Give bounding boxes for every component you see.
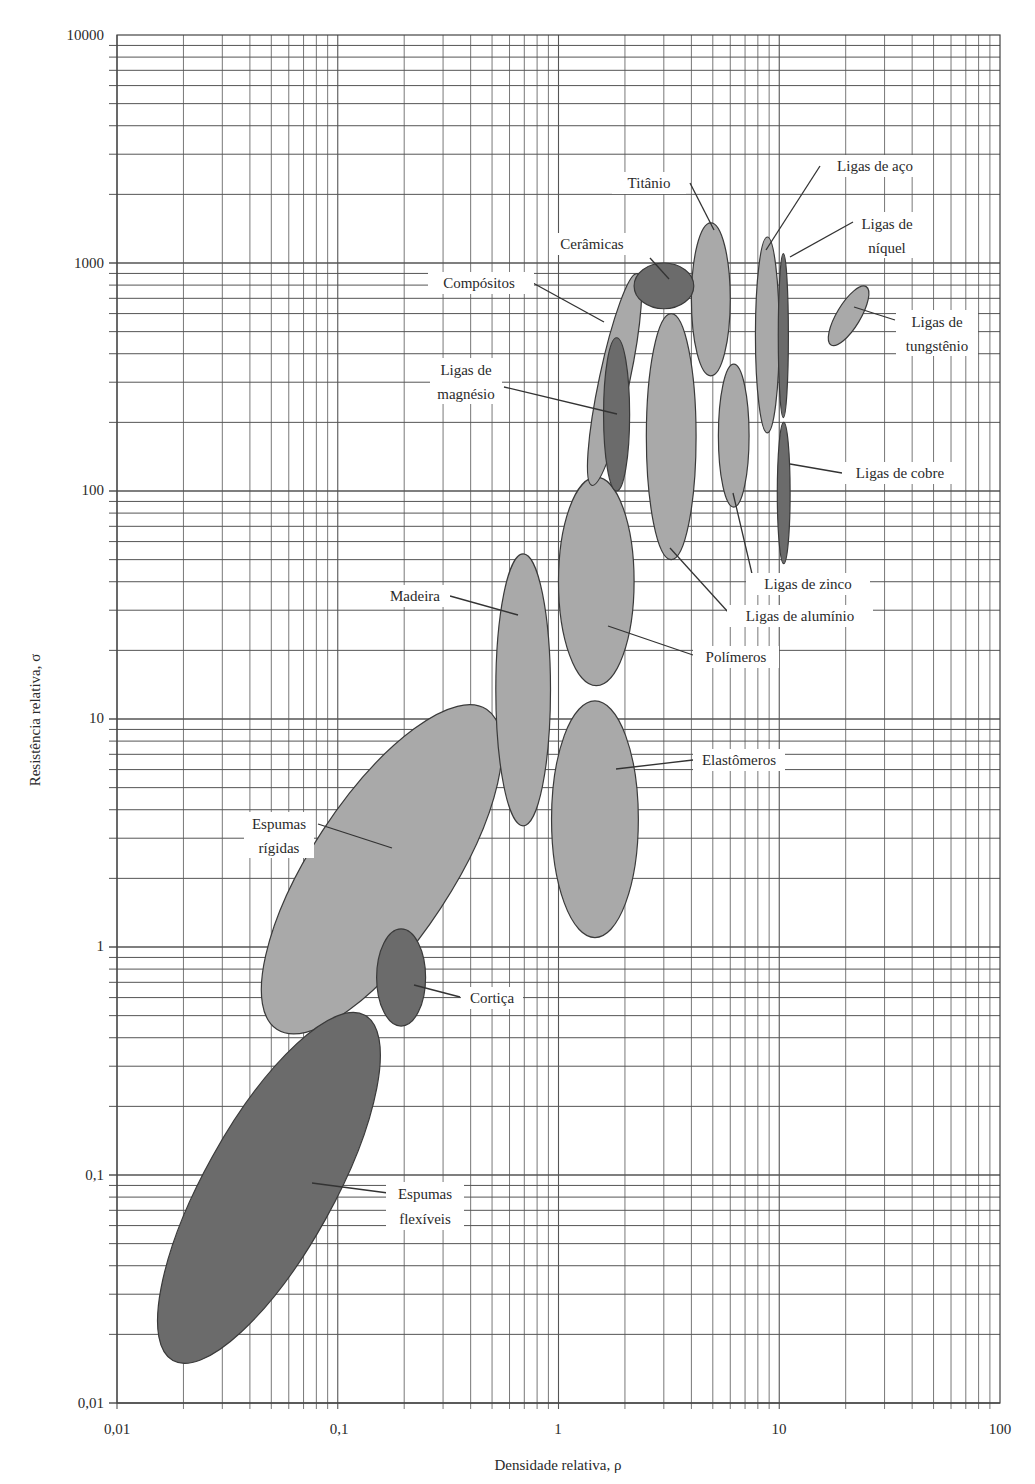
label-polimeros: Polímeros [706, 649, 767, 665]
y-tick-100: 100 [82, 482, 105, 498]
y-tick-1: 1 [97, 938, 105, 954]
y-tick-0.1: 0,1 [85, 1167, 104, 1183]
y-tick-0.01: 0,01 [78, 1395, 104, 1411]
x-tick-0.1: 0,1 [330, 1421, 349, 1437]
envelope-ligas-de-aço [755, 237, 779, 433]
y-tick-10000: 10000 [67, 27, 105, 43]
label-compositos: Compósitos [443, 275, 515, 291]
material-selection-chart: Espumas flexíveis Espumas rígidas Cortiç… [0, 0, 1035, 1484]
y-tick-1000: 1000 [74, 255, 104, 271]
label-espumas-flexiveis-2: flexíveis [399, 1211, 451, 1227]
label-aluminio: Ligas de alumínio [746, 608, 854, 624]
label-madeira: Madeira [390, 588, 440, 604]
x-tick-1: 1 [554, 1421, 562, 1437]
label-niquel: Ligas de [861, 216, 913, 232]
x-tick-10: 10 [772, 1421, 787, 1437]
envelope-elastômeros [552, 701, 639, 938]
y-tick-10: 10 [89, 710, 104, 726]
envelope-ligas-de-tungstênio [821, 281, 876, 352]
envelope-cortiça [377, 929, 426, 1026]
label-magnesio: Ligas de [440, 362, 492, 378]
label-ceramicas: Cerâmicas [560, 236, 623, 252]
envelope-madeira [496, 554, 551, 826]
envelope-ligas-de-zinco [718, 364, 749, 507]
label-cobre: Ligas de cobre [856, 465, 945, 481]
label-espumas-rigidas-2: rígidas [259, 840, 300, 856]
envelope-ligas-de-níquel [778, 254, 788, 418]
label-magnesio-2: magnésio [437, 386, 495, 402]
envelope-cerâmicas [634, 263, 694, 309]
label-niquel-2: níquel [868, 240, 906, 256]
x-tick-0.01: 0,01 [104, 1421, 130, 1437]
y-axis-title: Resistência relativa, σ [27, 654, 43, 787]
y-axis: 10000 1000 100 10 1 0,1 0,01 Resistência… [27, 27, 104, 1411]
label-aco: Ligas de aço [837, 158, 913, 174]
label-titanio: Titânio [628, 175, 671, 191]
envelope-titânio [691, 223, 730, 376]
label-tungstenio-2: tungstênio [906, 338, 969, 354]
label-zinco: Ligas de zinco [764, 576, 851, 592]
envelope-ligas-de-alumínio [646, 314, 696, 560]
x-axis: 0,01 0,1 1 10 100 Densidade relativa, ρ [104, 1421, 1011, 1473]
x-axis-title: Densidade relativa, ρ [494, 1457, 621, 1473]
label-elastomeros: Elastômeros [702, 752, 776, 768]
label-tungstenio: Ligas de [911, 314, 963, 330]
label-espumas-flexiveis: Espumas [398, 1186, 452, 1202]
envelope-polímeros [559, 477, 635, 686]
envelope-espumas-flexíveis [116, 984, 421, 1392]
x-tick-100: 100 [989, 1421, 1012, 1437]
envelope-ligas-de-cobre [777, 422, 790, 563]
label-cortica: Cortiça [470, 990, 514, 1006]
label-espumas-rigidas: Espumas [252, 816, 306, 832]
